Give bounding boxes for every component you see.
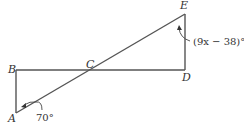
angle-arrow-a bbox=[36, 102, 42, 110]
point-label-c: C bbox=[86, 58, 95, 71]
point-label-a: A bbox=[7, 112, 16, 125]
angle-label-a: 70° bbox=[36, 112, 54, 123]
point-label-b: B bbox=[7, 63, 16, 76]
segment-ae bbox=[16, 14, 185, 113]
angle-label-e: (9x − 38)° bbox=[193, 36, 244, 47]
point-label-d: D bbox=[181, 71, 191, 84]
geometry-diagram: A B C D E 70° (9x − 38)° bbox=[0, 0, 244, 127]
arrowhead-icon bbox=[177, 25, 182, 30]
point-label-e: E bbox=[179, 0, 188, 12]
